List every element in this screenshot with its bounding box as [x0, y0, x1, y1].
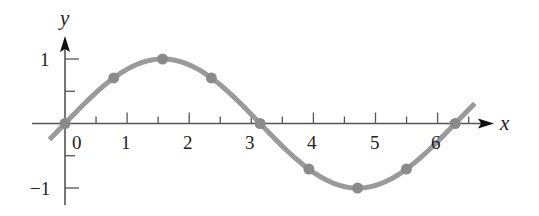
y-tick-label-1: 1	[40, 49, 50, 70]
x-tick-label-0: 0	[72, 132, 82, 153]
data-point	[206, 72, 217, 83]
x-tick-label-3: 3	[245, 132, 255, 153]
data-point	[157, 54, 168, 65]
data-point	[255, 118, 266, 129]
data-point	[450, 118, 461, 129]
y-axis-label: y	[58, 6, 70, 30]
data-point	[303, 164, 314, 175]
x-tick-label-1: 1	[121, 132, 131, 153]
data-point	[108, 72, 119, 83]
x-axis-label: x	[499, 111, 510, 135]
data-point	[60, 118, 71, 129]
sine-chart: y x 1 −1 0 1 2 3 4 5 6	[0, 0, 539, 216]
y-tick-label-neg1: −1	[30, 178, 50, 199]
data-point	[352, 183, 363, 194]
x-tick-label-6: 6	[431, 132, 441, 153]
data-point	[401, 164, 412, 175]
x-tick-label-5: 5	[370, 132, 380, 153]
x-tick-label-4: 4	[307, 132, 317, 153]
x-tick-label-2: 2	[183, 132, 193, 153]
